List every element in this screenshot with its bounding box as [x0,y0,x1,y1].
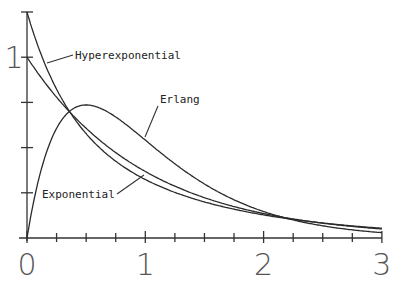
y-tick-label: 1 [4,40,23,75]
curves [27,12,382,238]
axes: 01231 [4,12,391,282]
erlang-curve [27,105,382,238]
x-tick-label: 0 [17,247,36,282]
x-tick-label: 3 [372,247,391,282]
hyperexponential-leader [47,55,73,63]
exponential-label: Exponential [42,188,115,201]
erlang-leader [145,106,158,137]
exponential-leader [117,175,144,194]
x-tick-label: 1 [136,247,155,282]
curve-labels: Hyperexponential Erlang Exponential [42,49,200,201]
x-tick-label: 2 [254,247,273,282]
erlang-label: Erlang [160,93,200,106]
hyperexponential-label: Hyperexponential [75,49,181,62]
pdf-chart: 01231 Hyperexponential Erlang Exponentia… [0,0,399,286]
exponential-curve [27,57,382,229]
